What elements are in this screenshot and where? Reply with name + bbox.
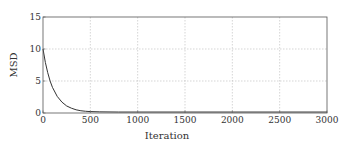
x-tick-label: 500 — [82, 115, 99, 125]
x-tick-label: 1000 — [126, 115, 149, 125]
y-tick-label: 5 — [35, 76, 41, 86]
grid-lines — [43, 17, 327, 113]
msd-chart: 050010001500200025003000 051015 Iteratio… — [0, 0, 345, 146]
x-tick-label: 1500 — [174, 115, 197, 125]
chart-canvas: 050010001500200025003000 051015 Iteratio… — [0, 0, 345, 146]
y-tick-label: 0 — [35, 108, 41, 118]
x-tick-label: 0 — [40, 115, 46, 125]
y-axis-label: MSD — [8, 52, 19, 77]
y-tick-label: 10 — [30, 44, 42, 54]
x-axis-label: Iteration — [145, 130, 190, 141]
x-tick-label: 2000 — [221, 115, 244, 125]
y-tick-label: 15 — [30, 12, 42, 22]
x-tick-label: 2500 — [268, 115, 291, 125]
x-tick-label: 3000 — [316, 115, 339, 125]
